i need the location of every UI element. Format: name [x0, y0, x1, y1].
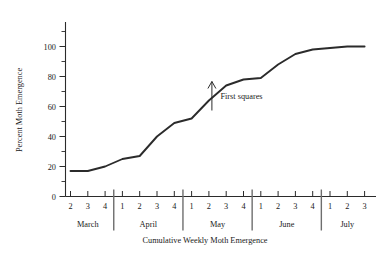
x-tick-label: 3	[293, 202, 297, 211]
y-tick-label: 60	[48, 103, 56, 112]
month-label: May	[210, 220, 226, 229]
y-tick-label: 80	[48, 73, 56, 82]
x-tick-label: 1	[328, 202, 332, 211]
x-tick-label: 3	[155, 202, 159, 211]
month-label: April	[140, 220, 158, 229]
y-tick-label: 0	[52, 193, 56, 202]
x-tick-label: 2	[207, 202, 211, 211]
annotation-label: First squares	[220, 92, 262, 101]
x-tick-label: 3	[363, 202, 367, 211]
x-tick-label: 2	[68, 202, 72, 211]
x-tick-label: 2	[138, 202, 142, 211]
x-tick-label: 1	[190, 202, 194, 211]
x-tick-label: 1	[120, 202, 124, 211]
y-axis-tick-labels: 0 20 40 60 80 100	[44, 43, 56, 202]
x-tick-label: 4	[172, 202, 177, 211]
data-series-line	[71, 47, 365, 172]
x-tick-label: 4	[103, 202, 108, 211]
x-tick-label: 1	[259, 202, 263, 211]
y-tick-label: 100	[44, 43, 56, 52]
month-group-labels: MarchAprilMayJuneJuly	[77, 220, 355, 229]
chart-container: Percent Moth Emergence 0 20 40	[0, 0, 390, 258]
x-tick-label: 3	[86, 202, 90, 211]
x-tick-label: 2	[345, 202, 349, 211]
y-tick-label: 40	[48, 133, 56, 142]
month-label: July	[340, 220, 355, 229]
x-tick-label: 2	[276, 202, 280, 211]
y-axis-label: Percent Moth Emergence	[15, 68, 24, 152]
month-label: June	[279, 220, 295, 229]
x-tick-label: 4	[311, 202, 316, 211]
x-axis-title: Cumulative Weekly Moth Emergence	[142, 236, 267, 245]
line-chart: Percent Moth Emergence 0 20 40	[0, 0, 390, 258]
y-tick-label: 20	[48, 163, 56, 172]
month-label: March	[77, 220, 100, 229]
annotation-first-squares: First squares	[208, 82, 263, 111]
x-axis-ticks	[71, 191, 365, 197]
x-tick-label: 4	[241, 202, 246, 211]
x-tick-label: 3	[224, 202, 228, 211]
